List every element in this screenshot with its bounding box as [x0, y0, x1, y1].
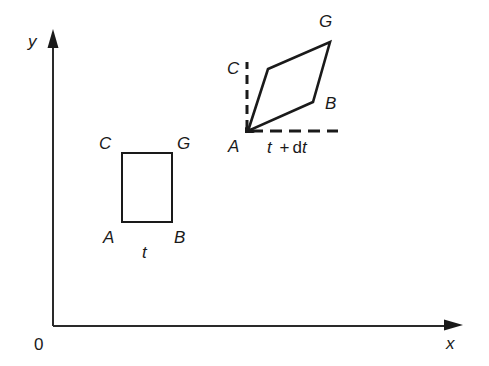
para-vertex-g-label: G: [319, 13, 332, 30]
time-t-plus-dt-label: t +dt: [267, 139, 307, 156]
time-t-part: t: [267, 138, 272, 157]
y-axis-arrow-icon: [48, 29, 59, 48]
x-axis-arrow-icon: [444, 320, 463, 331]
rect-vertex-b-label: B: [174, 229, 185, 246]
para-vertex-c-label: C: [227, 60, 239, 77]
element-rectangle-at-t: [122, 153, 172, 222]
time-t-part-2: t: [302, 138, 307, 157]
plus-sign: +: [279, 138, 289, 157]
x-axis: [53, 320, 463, 331]
element-parallelogram-at-t-plus-dt: [248, 42, 330, 131]
para-vertex-a-label: A: [228, 138, 239, 155]
para-vertex-b-label: B: [325, 95, 336, 112]
rect-vertex-g-label: G: [177, 135, 190, 152]
differential-d: d: [292, 138, 301, 157]
diagram-canvas: y x 0 C G A B t C G B A t +dt: [0, 0, 489, 366]
x-axis-label: x: [446, 335, 455, 352]
rect-vertex-c-label: C: [99, 135, 111, 152]
rect-vertex-a-label: A: [103, 229, 114, 246]
y-axis: [48, 29, 59, 326]
y-axis-label: y: [28, 33, 37, 50]
origin-label: 0: [34, 336, 43, 353]
diagram-svg: [0, 0, 489, 366]
time-t-label: t: [142, 244, 147, 261]
